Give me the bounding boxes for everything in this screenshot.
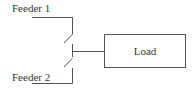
feeder-1-line	[32, 18, 73, 35]
feeder-1-label: Feeder 1	[12, 2, 50, 14]
feeder-2-label: Feeder 2	[12, 71, 50, 83]
switch-1-icon	[64, 34, 73, 57]
load-label: Load	[134, 45, 157, 57]
feeder-switch-diagram: Feeder 1 Feeder 2 Load	[0, 0, 196, 90]
switch-2-icon	[64, 58, 73, 84]
